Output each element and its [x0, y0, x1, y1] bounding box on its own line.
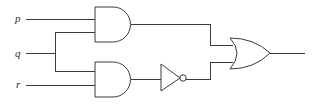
wire-not-to-or	[186, 62, 233, 79]
wire-and-top-to-or	[131, 24, 233, 45]
input-label-p: p	[14, 12, 21, 24]
and-gate-bottom	[95, 62, 131, 97]
logic-circuit-figure: p q r	[0, 0, 316, 108]
circuit-canvas: p q r	[0, 0, 316, 108]
and-gate-top	[95, 7, 131, 42]
input-label-q: q	[15, 47, 21, 59]
or-gate	[230, 38, 270, 69]
input-label-r: r	[16, 78, 21, 90]
not-gate-bubble-icon	[180, 75, 186, 81]
not-gate-triangle	[161, 64, 180, 91]
